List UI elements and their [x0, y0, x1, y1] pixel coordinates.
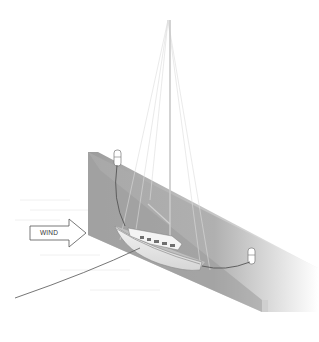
bollard-stern [248, 248, 255, 264]
mooring-illustration [0, 0, 319, 342]
wind-label: WIND [29, 229, 69, 236]
quay-wall-end [262, 300, 268, 312]
bollard-bow [114, 150, 121, 166]
